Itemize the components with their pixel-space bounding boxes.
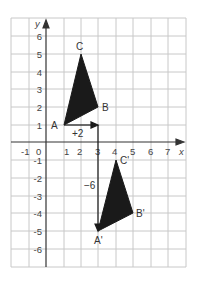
svg-text:3: 3 (37, 84, 42, 95)
svg-text:-6: -6 (34, 244, 42, 255)
svg-text:6: 6 (148, 146, 153, 157)
x-axis-label: x (178, 146, 185, 157)
svg-text:-1: -1 (21, 146, 29, 157)
svg-text:4: 4 (37, 67, 42, 78)
svg-text:-1: -1 (34, 155, 42, 166)
vertex-label-b-prime: B' (136, 208, 145, 219)
svg-text:-3: -3 (34, 191, 42, 202)
svg-text:-5: -5 (34, 226, 42, 237)
coordinate-grid: y x -1 0 1 2 3 4 5 6 7 6 5 4 3 2 1 -1 -2… (0, 0, 198, 281)
svg-text:2: 2 (77, 146, 82, 157)
svg-text:5: 5 (130, 146, 135, 157)
vertex-label-b: B (102, 102, 109, 113)
horizontal-shift-label: +2 (72, 128, 84, 139)
svg-text:2: 2 (37, 102, 42, 113)
svg-text:5: 5 (37, 49, 42, 60)
svg-text:-2: -2 (34, 173, 42, 184)
y-axis-label: y (34, 18, 41, 29)
svg-text:1: 1 (64, 146, 69, 157)
vertex-label-a: A (51, 120, 58, 131)
vertex-label-c: C (76, 41, 83, 52)
vertex-label-c-prime: C' (120, 155, 129, 166)
x-tick-labels: -1 0 1 2 3 4 5 6 7 (21, 146, 170, 157)
vertical-shift-label: −6 (84, 180, 96, 191)
vertex-label-a-prime: A' (94, 235, 103, 246)
y-tick-labels: 6 5 4 3 2 1 -1 -2 -3 -4 -5 -6 (34, 31, 42, 255)
svg-text:1: 1 (37, 120, 42, 131)
svg-text:6: 6 (37, 31, 42, 42)
svg-text:4: 4 (112, 146, 117, 157)
svg-text:-4: -4 (34, 208, 42, 219)
svg-text:7: 7 (165, 146, 170, 157)
